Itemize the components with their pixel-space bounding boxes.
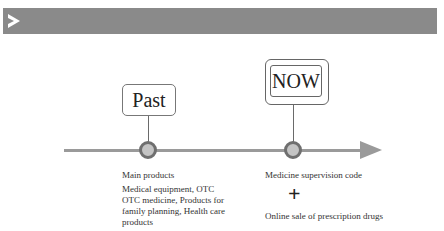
now-label-inner: NOW bbox=[270, 65, 322, 97]
past-description: Medical equipment, OTC OTC medicine, Pro… bbox=[122, 184, 227, 228]
past-title: Main products bbox=[122, 170, 252, 181]
now-label-box: NOW bbox=[265, 59, 329, 105]
header-bar bbox=[3, 8, 437, 34]
past-node bbox=[139, 141, 157, 159]
past-label-box: Past bbox=[122, 84, 176, 116]
now-item-supervision-code: Medicine supervision code bbox=[265, 170, 415, 181]
plus-icon: + bbox=[288, 183, 301, 205]
timeline-line bbox=[64, 149, 364, 152]
double-triangle-play-icon bbox=[6, 12, 24, 30]
past-connector bbox=[148, 116, 149, 142]
now-item-online-sale: Online sale of prescription drugs bbox=[265, 211, 435, 222]
past-label: Past bbox=[132, 89, 165, 112]
now-node bbox=[284, 141, 302, 159]
now-connector bbox=[293, 105, 294, 142]
timeline-arrow-icon bbox=[360, 141, 382, 159]
now-label: NOW bbox=[272, 70, 320, 93]
